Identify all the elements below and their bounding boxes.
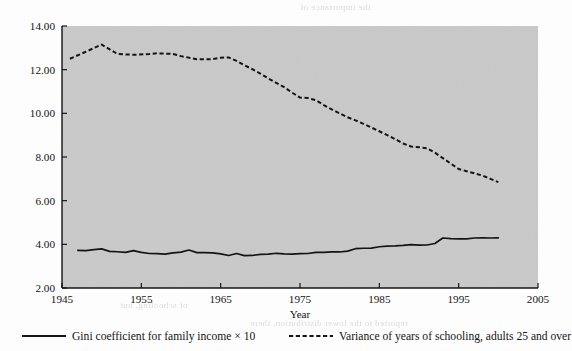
x-axis-title: Year	[290, 308, 311, 320]
x-axis-tick-label: 2005	[527, 293, 550, 305]
y-axis-tick-label: 10.00	[30, 107, 56, 119]
chart-legend: Gini coefficient for family income × 10V…	[22, 330, 571, 343]
x-axis-tick-label: 1955	[130, 293, 153, 305]
y-axis-tick-label: 12.00	[30, 64, 56, 76]
y-axis-tick-label: 14.00	[30, 20, 56, 32]
legend-label-variance: Variance of years of schooling, adults 2…	[339, 330, 571, 343]
legend-label-gini: Gini coefficient for family income × 10	[72, 330, 256, 343]
x-axis-tick-label: 1975	[289, 293, 312, 305]
y-axis-tick-label: 6.00	[35, 195, 55, 207]
x-axis-tick-labels: 1945195519651975198519952005	[51, 293, 550, 305]
x-axis-tick-label: 1995	[447, 293, 470, 305]
y-axis-tick-label: 4.00	[35, 238, 55, 250]
y-axis-tick-label: 8.00	[35, 151, 55, 163]
y-axis-tick-labels: 2.004.006.008.0010.0012.0014.00	[30, 20, 56, 294]
x-axis-tick-label: 1945	[51, 293, 74, 305]
x-axis-tick-label: 1965	[209, 293, 232, 305]
x-axis-tick-label: 1985	[368, 293, 391, 305]
plot-area-grain	[62, 26, 538, 288]
line-chart: 2.004.006.008.0010.0012.0014.00 19451955…	[0, 0, 572, 351]
chart-figure: the importance of a great impact on of s…	[0, 0, 572, 351]
